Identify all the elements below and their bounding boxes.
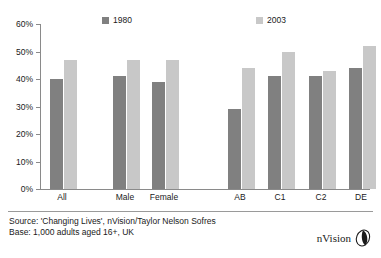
bar [242, 68, 255, 189]
logo-text: nVision [317, 232, 351, 244]
y-axis-tick-label: 0% [21, 185, 33, 194]
bar [166, 60, 179, 189]
bar [113, 76, 126, 189]
x-axis-category-label: C2 [316, 192, 327, 202]
y-axis-tick: 10% [36, 162, 40, 163]
bar [363, 46, 376, 189]
y-axis-tick: 20% [36, 134, 40, 135]
bar [64, 60, 77, 189]
bar [268, 76, 281, 189]
footer-notes: Source: 'Changing Lives', nVision/Taylor… [9, 216, 309, 238]
legend-swatch-2003 [256, 17, 263, 24]
bars-layer [41, 24, 370, 189]
x-axis-line [40, 189, 370, 190]
nvision-leaf-icon [353, 228, 373, 248]
y-axis-tick: 40% [36, 79, 40, 80]
plot-area: 0%10%20%30%40%50%60% [40, 24, 370, 190]
y-axis-tick: 30% [36, 107, 40, 108]
bar [50, 79, 63, 189]
y-axis-tick-label: 20% [16, 130, 33, 139]
x-axis-category-labels: AllMaleFemaleABC1C2DE [40, 192, 370, 206]
y-axis-tick-label: 40% [16, 75, 33, 84]
y-axis-tick-label: 50% [16, 47, 33, 56]
bar [228, 109, 241, 189]
y-axis-tick-label: 30% [16, 102, 33, 111]
y-axis-tick: 0% [36, 189, 40, 190]
base-line: Base: 1,000 adults aged 16+, UK [9, 227, 309, 238]
bar [349, 68, 362, 189]
bar-chart-figure: 1980 2003 0%10%20%30%40%50%60% AllMaleFe… [0, 0, 381, 258]
y-axis-tick-label: 60% [16, 20, 33, 29]
y-axis-tick-label: 10% [16, 157, 33, 166]
nvision-logo: nVision [317, 228, 373, 248]
legend-swatch-1980 [102, 17, 109, 24]
x-axis-category-label: All [57, 192, 66, 202]
bar [152, 82, 165, 189]
bar [323, 71, 336, 189]
bar [282, 52, 295, 190]
source-line: Source: 'Changing Lives', nVision/Taylor… [9, 216, 309, 227]
bar [127, 60, 140, 189]
x-axis-category-label: DE [355, 192, 367, 202]
x-axis-category-label: AB [234, 192, 245, 202]
x-axis-category-label: Female [150, 192, 178, 202]
x-axis-category-label: C1 [275, 192, 286, 202]
x-axis-category-label: Male [116, 192, 134, 202]
y-axis-tick: 50% [36, 52, 40, 53]
bar [309, 76, 322, 189]
y-axis-tick: 60% [36, 24, 40, 25]
footer-divider [8, 211, 373, 212]
